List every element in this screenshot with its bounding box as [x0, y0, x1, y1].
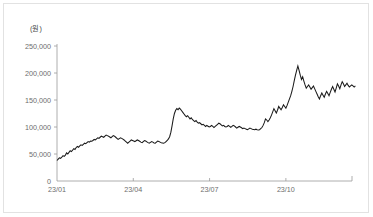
y-axis: 050,000100,000150,000200,000250,000 — [25, 42, 57, 186]
x-tick-label: 23/01 — [48, 185, 66, 194]
y-tick-label: 200,000 — [25, 69, 51, 78]
y-axis-unit-label: (원) — [30, 24, 42, 33]
y-tick-label: 150,000 — [25, 96, 51, 105]
y-axis-ticks — [54, 46, 57, 154]
y-axis-tick-labels: 050,000100,000150,000200,000250,000 — [25, 42, 51, 186]
x-tick-label: 23/07 — [201, 185, 219, 194]
x-axis-ticks — [133, 178, 286, 181]
x-axis: 23/0123/0423/0723/10 — [48, 176, 352, 194]
price-series-line — [57, 66, 355, 160]
x-tick-label: 23/04 — [124, 185, 142, 194]
x-tick-label: 23/10 — [277, 185, 295, 194]
stock-price-chart-card: 050,000100,000150,000200,000250,000 23/0… — [0, 0, 373, 217]
x-axis-tick-labels: 23/0123/0423/0723/10 — [48, 185, 295, 194]
y-tick-label: 50,000 — [29, 150, 51, 159]
y-tick-label: 100,000 — [25, 123, 51, 132]
chart-plot-area: 050,000100,000150,000200,000250,000 23/0… — [0, 0, 373, 217]
y-tick-label: 250,000 — [25, 42, 51, 51]
